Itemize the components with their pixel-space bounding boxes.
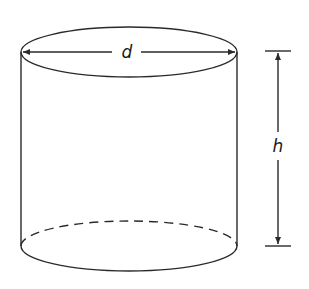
height-label: h bbox=[273, 136, 284, 156]
bottom-ellipse-back-dashed bbox=[21, 221, 237, 246]
cylinder-diagram: d h bbox=[0, 0, 309, 289]
diameter-label: d bbox=[122, 42, 133, 62]
bottom-ellipse-front bbox=[21, 246, 237, 271]
